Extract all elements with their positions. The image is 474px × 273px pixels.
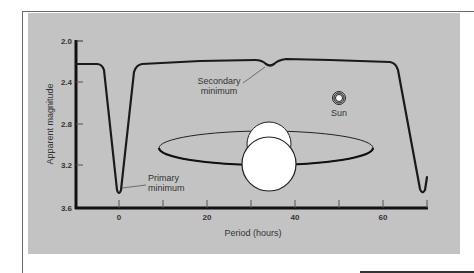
y-tick-label: 3.2 — [61, 161, 73, 170]
secondary-minimum-leader — [243, 67, 265, 83]
sun-label: Sun — [331, 108, 347, 118]
primary-minimum-label-1: Primary — [148, 173, 179, 183]
primary-minimum-leader — [122, 185, 146, 188]
y-tick-label: 2.4 — [61, 78, 73, 87]
x-tick-label: 20 — [203, 213, 212, 222]
y-axis-title: Apparent magnitude — [45, 83, 55, 164]
y-tick-label: 3.6 — [61, 204, 73, 213]
x-tick-labels: 0 20 40 60 — [117, 213, 388, 222]
binary-orbit-diagram — [159, 122, 373, 191]
light-curve-chart: 2.0 2.4 2.8 3.2 3.6 0 20 40 60 Period (h… — [0, 0, 474, 273]
x-tick-label: 0 — [117, 213, 122, 222]
x-axis-title: Period (hours) — [224, 228, 281, 238]
primary-star-icon — [242, 137, 296, 191]
x-tick-label: 60 — [379, 213, 388, 222]
y-tick-labels: 2.0 2.4 2.8 3.2 3.6 — [61, 37, 73, 213]
primary-minimum-label-2: minimum — [148, 183, 185, 193]
x-tick-label: 40 — [291, 213, 300, 222]
secondary-minimum-label-1: Secondary — [197, 76, 241, 86]
y-tick-label: 2.8 — [61, 120, 73, 129]
secondary-minimum-label-2: minimum — [201, 86, 238, 96]
sun-icon — [333, 92, 346, 105]
y-tick-label: 2.0 — [61, 37, 73, 46]
